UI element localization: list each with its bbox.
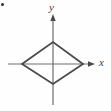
x-axis-arrowhead [88,61,95,66]
math-figure: y x [0,0,111,111]
coordinate-plane-graphic [0,0,111,111]
corner-dot-mark [1,3,4,6]
y-axis-label: y [49,2,54,13]
y-axis-arrowhead [50,14,55,21]
x-axis-label: x [99,57,104,68]
